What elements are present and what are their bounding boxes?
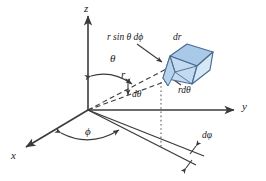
axis-label-y: y	[242, 101, 247, 112]
angle-label-dtheta: dθ	[132, 90, 141, 100]
volume-element-box	[163, 44, 213, 86]
rsintheta-dphi-leader	[137, 44, 162, 62]
angle-label-phi: ϕ	[85, 126, 91, 137]
axis-label-z: z	[84, 3, 88, 14]
projection-line-phi	[88, 110, 204, 165]
radius-label-r: r	[121, 69, 125, 80]
angle-label-theta: θ	[110, 53, 115, 64]
label-dr: dr	[173, 33, 181, 43]
label-rdtheta: rdθ	[178, 86, 191, 96]
theta-arc	[91, 74, 132, 84]
axis-x	[26, 110, 88, 147]
radius-line-r-plus-dtheta	[88, 79, 172, 110]
angle-label-dphi: dφ	[202, 131, 212, 141]
radius-line-r	[88, 67, 170, 110]
spherical-coordinates-diagram: z y x θ ϕ dθ dφ r r sin θ dϕ dr rdθ	[0, 0, 266, 181]
axis-label-x: x	[11, 150, 16, 161]
label-r-sin-theta-dphi: r sin θ dϕ	[107, 33, 143, 43]
